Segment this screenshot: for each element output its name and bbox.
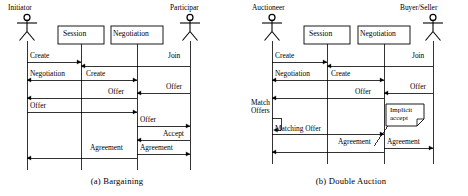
object-label-negotiation: Negotiation: [360, 30, 396, 38]
message-label: Agreement: [387, 138, 420, 146]
figure-pair-root: Initiator Participar Session Negotiation…: [0, 0, 468, 196]
message-arrow-head: [137, 138, 141, 142]
message-arrow-head: [137, 91, 141, 95]
message-label: Offer: [355, 88, 371, 96]
message-label: Offer: [140, 116, 156, 124]
message-label: Create: [331, 70, 350, 78]
message-label: Accept: [163, 130, 184, 138]
message-arrow-head: [27, 96, 31, 100]
message-arrow-head: [133, 78, 137, 82]
actor-leg-right: [27, 32, 35, 41]
actor-label-buyer-seller: Buyer/Seller: [400, 4, 437, 12]
message-label: Agreement: [140, 144, 173, 152]
message-arrow-head: [133, 110, 137, 114]
message-label: Offer: [30, 102, 46, 110]
message-label: Join: [412, 52, 424, 60]
actor-leg-right: [272, 32, 280, 41]
actor-leg-left: [20, 32, 28, 41]
actor-leg-left: [183, 32, 191, 41]
message-arrow-head: [186, 152, 190, 156]
figure-caption-bargaining: (a) Bargaining: [0, 176, 234, 186]
message-arrow-head: [380, 78, 384, 82]
message-arrow-head: [27, 156, 31, 160]
message-arrow-head: [186, 124, 190, 128]
message-arrow-head: [323, 60, 327, 64]
message-arrow-head: [272, 150, 276, 154]
actor-leg-right: [433, 32, 441, 41]
object-label-negotiation: Negotiation: [113, 30, 149, 38]
actor-leg-left: [265, 32, 273, 41]
actor-head: [430, 14, 436, 20]
message-label: Matching Offer: [275, 125, 321, 133]
message-label: Create: [275, 52, 294, 60]
actor-right: [180, 14, 200, 40]
message-label: Create: [30, 52, 49, 60]
actor-head: [269, 14, 275, 20]
actor-label-participant: Participar: [170, 4, 199, 12]
figure-caption-double-auction: (b) Double Auction: [234, 176, 468, 186]
message-arrow-head: [27, 78, 31, 82]
note-leader-line: [374, 126, 388, 146]
message-label: Negotiation: [275, 70, 310, 78]
actor-head: [187, 14, 193, 20]
actor-label-auctioneer: Auctioneer: [252, 4, 285, 12]
message-label: Join: [168, 52, 180, 60]
message-label: Offer: [108, 88, 124, 96]
actor-left: [262, 14, 282, 40]
note-text-line2: accept: [390, 115, 408, 123]
actor-label-initiator: Initiator: [8, 4, 32, 12]
message-arrow-head: [272, 78, 276, 82]
object-label-session: Session: [63, 30, 86, 38]
actor-left: [17, 14, 37, 40]
message-arrow-head: [327, 64, 331, 68]
message-label: Negotiation: [30, 70, 65, 78]
message-arrow-head: [77, 60, 81, 64]
actor-leg-right: [190, 32, 198, 41]
figure-bargaining: Initiator Participar Session Negotiation…: [0, 0, 234, 196]
object-label-session: Session: [309, 30, 332, 38]
message-arrow-head: [272, 96, 276, 100]
message-label: Agreement: [338, 138, 371, 146]
actor-right: [423, 14, 443, 40]
message-label: Create: [86, 70, 105, 78]
message-label: Offer: [410, 83, 426, 91]
message-label: Offer: [166, 83, 182, 91]
message-label: Agreement: [90, 144, 123, 152]
self-action-label-line2: Offers: [251, 107, 270, 115]
actor-head: [24, 14, 30, 20]
message-arrow-head: [81, 64, 85, 68]
actor-leg-left: [426, 32, 434, 41]
message-arrow-head: [384, 91, 388, 95]
message-arrow-head: [429, 146, 433, 150]
figure-double-auction: Auctioneer Buyer/Seller Session Negotiat…: [234, 0, 468, 196]
